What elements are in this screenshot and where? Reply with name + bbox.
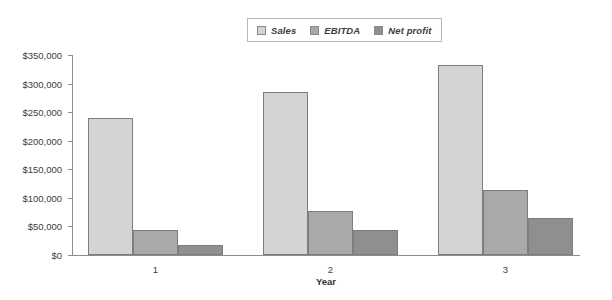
y-tick-label: $100,000: [0, 192, 62, 203]
y-tick-label: $350,000: [0, 50, 62, 61]
bar-ebitda-year-3[interactable]: [483, 190, 528, 255]
y-tick-mark: [68, 255, 72, 256]
y-tick-label: $50,000: [0, 221, 62, 232]
y-tick-mark: [68, 55, 72, 56]
bar-net-profit-year-1[interactable]: [178, 245, 223, 255]
x-tick-label: 2: [328, 264, 333, 275]
y-tick-label: $200,000: [0, 135, 62, 146]
legend-item-label: Sales: [271, 25, 296, 36]
x-axis-title: Year: [316, 276, 336, 287]
bar-sales-year-1[interactable]: [88, 118, 133, 255]
legend-swatch-icon: [310, 26, 319, 35]
y-tick-mark: [68, 226, 72, 227]
y-tick-label: $300,000: [0, 78, 62, 89]
x-axis-line: [72, 255, 580, 256]
bar-ebitda-year-1[interactable]: [133, 230, 178, 255]
y-tick-mark: [68, 198, 72, 199]
y-tick-label: $150,000: [0, 164, 62, 175]
bar-chart: SalesEBITDANet profit $0$50,000$100,000$…: [0, 0, 612, 300]
x-tick-label: 3: [503, 264, 508, 275]
legend-swatch-icon: [374, 26, 383, 35]
x-tick-label: 1: [153, 264, 158, 275]
legend-item[interactable]: Net profit: [374, 25, 431, 36]
y-tick-mark: [68, 112, 72, 113]
chart-legend: SalesEBITDANet profit: [247, 18, 442, 42]
y-axis-line: [72, 55, 73, 256]
legend-item-label: Net profit: [388, 25, 431, 36]
legend-item[interactable]: Sales: [257, 25, 296, 36]
bar-sales-year-2[interactable]: [263, 92, 308, 255]
legend-item-label: EBITDA: [324, 25, 360, 36]
y-tick-mark: [68, 141, 72, 142]
legend-swatch-icon: [257, 26, 266, 35]
y-tick-mark: [68, 84, 72, 85]
bar-net-profit-year-3[interactable]: [528, 218, 573, 255]
y-tick-label: $250,000: [0, 107, 62, 118]
legend-item[interactable]: EBITDA: [310, 25, 360, 36]
y-tick-label: $0: [0, 250, 62, 261]
bar-net-profit-year-2[interactable]: [353, 230, 398, 255]
y-tick-mark: [68, 169, 72, 170]
bar-sales-year-3[interactable]: [438, 65, 483, 255]
plot-area: $0$50,000$100,000$150,000$200,000$250,00…: [72, 55, 580, 255]
bar-ebitda-year-2[interactable]: [308, 211, 353, 255]
